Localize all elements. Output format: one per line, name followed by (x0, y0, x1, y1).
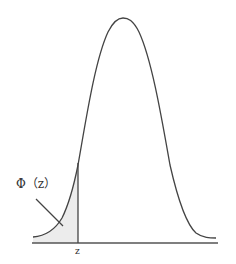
normal-distribution-diagram: Φ（z） z (0, 0, 236, 264)
pointer-line (36, 199, 63, 226)
phi-label: Φ（z） (16, 177, 56, 191)
z-label: z (75, 246, 80, 256)
bell-curve (33, 18, 216, 238)
